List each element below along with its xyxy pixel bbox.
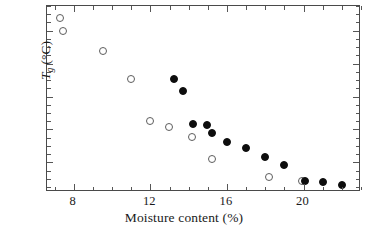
y-axis-units: (°C) [38, 41, 53, 64]
y-axis-title: Tg (°C) [38, 13, 55, 109]
x-tick-label-16: 16 [220, 194, 233, 209]
x-tick-top-9 [93, 6, 94, 10]
plot-area [46, 5, 360, 191]
y-tick-right-75 [356, 105, 360, 106]
y-tick-right-60 [353, 129, 359, 130]
y-tick-right-65 [356, 121, 360, 122]
data-point-filled [179, 87, 187, 95]
data-point-filled [170, 75, 178, 83]
data-point-open [265, 173, 273, 181]
y-tick-right-90 [356, 80, 360, 81]
y-tick-right-45 [356, 154, 360, 155]
data-point-filled [223, 138, 231, 146]
y-tick-70 [47, 113, 51, 114]
y-tick-right-105 [356, 55, 360, 56]
x-tick-label-8: 8 [70, 194, 76, 209]
y-tick-65 [47, 121, 51, 122]
data-point-filled [280, 161, 288, 169]
x-tick-top-23 [361, 6, 362, 10]
x-tick-16 [227, 184, 228, 190]
y-tick-right-135 [356, 6, 360, 7]
data-point-filled [189, 120, 197, 128]
y-tick-right-35 [356, 171, 360, 172]
x-tick-21 [323, 187, 324, 191]
x-tick-15 [208, 187, 209, 191]
x-tick-23 [361, 187, 362, 191]
x-tick-top-22 [342, 6, 343, 10]
data-point-open [208, 155, 216, 163]
y-tick-55 [47, 138, 51, 139]
x-tick-top-20 [304, 6, 305, 12]
data-point-filled [319, 178, 327, 186]
x-tick-10 [112, 187, 113, 191]
y-tick-30 [47, 179, 51, 180]
y-axis-subscript: g [45, 68, 55, 73]
data-point-filled [208, 129, 216, 137]
y-axis-symbol: T [38, 73, 53, 81]
y-tick-right-50 [356, 146, 360, 147]
y-tick-right-110 [356, 47, 360, 48]
y-tick-right-85 [356, 88, 360, 89]
data-point-open [165, 123, 173, 131]
y-tick-right-70 [356, 113, 360, 114]
x-tick-12 [150, 184, 151, 190]
x-tick-7 [55, 187, 56, 191]
y-tick-right-80 [353, 97, 359, 98]
scatter-chart-figure: 8121620406080100120 Moisture content (%)… [0, 0, 368, 231]
y-tick-50 [47, 146, 51, 147]
x-tick-11 [131, 187, 132, 191]
x-tick-top-18 [265, 6, 266, 10]
x-tick-top-11 [131, 6, 132, 10]
data-point-open [127, 75, 135, 83]
y-tick-45 [47, 154, 51, 155]
y-tick-right-55 [356, 138, 360, 139]
data-points-layer [47, 6, 359, 190]
y-tick-right-30 [356, 179, 360, 180]
data-point-open [56, 14, 64, 22]
x-tick-19 [284, 187, 285, 191]
y-tick-right-95 [356, 72, 360, 73]
x-tick-top-19 [284, 6, 285, 10]
y-tick-right-115 [356, 39, 360, 40]
y-tick-right-120 [353, 31, 359, 32]
y-tick-60 [47, 129, 53, 130]
x-tick-top-8 [74, 6, 75, 12]
x-tick-8 [74, 184, 75, 190]
x-tick-top-14 [189, 6, 190, 10]
x-tick-22 [342, 187, 343, 191]
data-point-open [59, 27, 67, 35]
x-tick-14 [189, 187, 190, 191]
x-tick-top-12 [150, 6, 151, 12]
data-point-open [188, 133, 196, 141]
x-tick-18 [265, 187, 266, 191]
y-tick-135 [47, 6, 51, 7]
x-tick-top-13 [170, 6, 171, 10]
y-tick-40 [47, 162, 53, 163]
x-tick-13 [170, 187, 171, 191]
x-tick-17 [246, 187, 247, 191]
x-tick-top-21 [323, 6, 324, 10]
y-tick-right-25 [356, 187, 360, 188]
y-tick-right-130 [356, 14, 360, 15]
x-tick-top-15 [208, 6, 209, 10]
data-point-open [146, 117, 154, 125]
x-tick-top-16 [227, 6, 228, 12]
x-tick-top-7 [55, 6, 56, 10]
data-point-filled [261, 153, 269, 161]
x-axis-title: Moisture content (%) [0, 210, 368, 226]
data-point-open [99, 47, 107, 55]
y-tick-right-100 [353, 64, 359, 65]
y-tick-25 [47, 187, 51, 188]
x-tick-20 [304, 184, 305, 190]
x-tick-label-20: 20 [296, 194, 309, 209]
x-tick-top-10 [112, 6, 113, 10]
y-tick-right-125 [356, 22, 360, 23]
y-tick-35 [47, 171, 51, 172]
y-tick-right-40 [353, 162, 359, 163]
data-point-filled [242, 144, 250, 152]
x-tick-9 [93, 187, 94, 191]
x-tick-top-17 [246, 6, 247, 10]
x-tick-label-12: 12 [143, 194, 156, 209]
